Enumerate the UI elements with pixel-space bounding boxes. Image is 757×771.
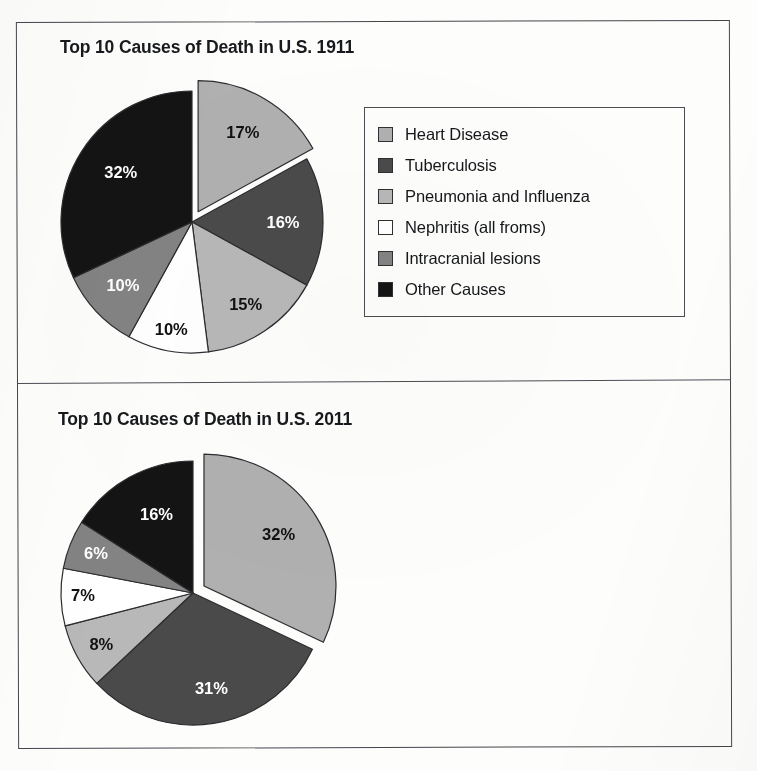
pie-slice-label: 32% [262,525,295,543]
pie-slice-label: 7% [71,586,95,604]
panel-1911: Top 10 Causes of Death in U.S. 1911 17%1… [0,0,757,383]
pie-slice-label: 15% [229,295,262,313]
legend-item-label: Intracranial lesions [405,250,541,267]
legend-item-label: Nephritis (all froms) [405,219,546,236]
legend-item-label: Heart Disease [405,126,508,143]
pie-slice-label: 16% [266,213,299,231]
pie-slice-label: 31% [195,679,228,697]
legend-item-1911-4: Intracranial lesions [378,243,670,274]
pie-svg-2011: 32%31%8%7%6%16% [58,441,358,741]
legend-swatch-icon [378,251,393,266]
legend-swatch-icon [378,189,393,204]
pie-slice-label: 8% [89,635,113,653]
legend-swatch-icon [378,158,393,173]
pie-slice-label: 6% [84,544,108,562]
pie-slice-label: 10% [106,276,139,294]
pie-slice-label: 32% [104,163,137,181]
legend-item-1911-1: Tuberculosis [378,150,670,181]
legend-item-1911-3: Nephritis (all froms) [378,212,670,243]
legend-item-1911-0: Heart Disease [378,119,670,150]
chart-title-2011: Top 10 Causes of Death in U.S. 2011 [58,409,352,430]
pie-svg-1911: 17%16%15%10%10%32% [62,72,352,362]
legend-swatch-icon [378,127,393,142]
pie-slice-label: 17% [226,123,259,141]
chart-title-1911: Top 10 Causes of Death in U.S. 1911 [60,37,354,58]
pie-slice-label: 10% [155,320,188,338]
legend-item-label: Pneumonia and Influenza [405,188,590,205]
legend-1911: Heart DiseaseTuberculosisPneumonia and I… [364,107,685,317]
legend-swatch-icon [378,220,393,235]
panel-2011: Top 10 Causes of Death in U.S. 2011 32%3… [0,383,757,771]
scanned-page: Top 10 Causes of Death in U.S. 1911 17%1… [0,0,757,771]
legend-item-1911-5: Other Causes [378,274,670,305]
pie-chart-1911: 17%16%15%10%10%32% [62,72,352,362]
legend-item-1911-2: Pneumonia and Influenza [378,181,670,212]
pie-slice-label: 16% [140,505,173,523]
pie-chart-2011: 32%31%8%7%6%16% [58,441,358,741]
legend-item-label: Tuberculosis [405,157,497,174]
legend-swatch-icon [378,282,393,297]
legend-item-label: Other Causes [405,281,506,298]
